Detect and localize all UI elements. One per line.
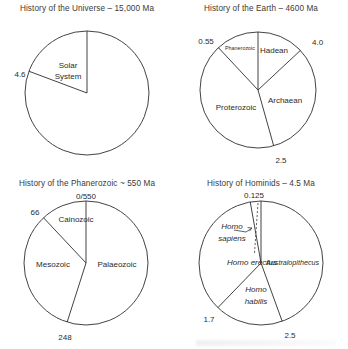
chart-grid: History of the Universe – 15,000 Ma Sola… (0, 0, 348, 349)
earth-label-phanerozoic: Phanerozoic (225, 45, 255, 51)
phanerozoic-tick-0-550: 0/550 (76, 192, 97, 201)
earth-spoke-0-55 (218, 48, 258, 90)
hominids-tick-2-5: 2.5 (284, 331, 296, 340)
hominids-label-habilis-line2: habilis (245, 297, 268, 306)
figure-root: { "figure": { "background": "#ffffff", "… (0, 0, 348, 349)
earth-label-proterozoic: Proterozoic (216, 103, 256, 112)
phanerozoic-tick-66: 66 (31, 208, 40, 217)
panel-phanerozoic: History of the Phanerozoic ~ 550 Ma Cain… (0, 175, 174, 349)
panel-hominids: History of Hominids – 4.5 Ma Homo sapien… (174, 175, 348, 349)
universe-tick-4-6: 4.6 (14, 70, 26, 79)
phanerozoic-label-cainozoic: Cainozoic (58, 215, 93, 224)
panel-universe-svg: Solar System 4.6 (0, 0, 174, 175)
phanerozoic-spoke-66 (44, 218, 86, 263)
hominids-tick-1-7: 1.7 (203, 315, 215, 324)
phanerozoic-spoke-248 (67, 263, 86, 322)
phanerozoic-label-mesozoic: Mesozoic (36, 260, 70, 269)
panel-earth-svg: Hadean Archaean Proterozoic Phanerozoic … (174, 0, 348, 175)
panel-phanerozoic-svg: Cainozoic Mesozoic Palaeozoic 0/550 66 2… (0, 175, 174, 349)
earth-spoke-4-0 (258, 50, 300, 90)
panel-earth: History of the Earth – 4600 Ma Hadean Ar… (174, 0, 348, 175)
earth-tick-2-5: 2.5 (275, 156, 287, 165)
earth-tick-0-55: 0.55 (198, 37, 214, 46)
hominids-label-sapiens-line1: Homo (221, 222, 243, 231)
phanerozoic-tick-248: 248 (58, 333, 72, 342)
panel-hominids-svg: Homo sapiens Homo erectus Homo habilis A… (174, 175, 348, 349)
hominids-tick-0-125: 0.125 (244, 191, 265, 200)
earth-label-archaean: Archaean (268, 96, 302, 105)
universe-wedge-label-line1: Solar (59, 61, 78, 70)
earth-label-hadean: Hadean (260, 46, 288, 55)
hominids-label-sapiens-line2: sapiens (218, 234, 246, 243)
universe-wedge-label-line2: System (55, 72, 82, 81)
earth-tick-4-0: 4.0 (312, 38, 324, 47)
panel-universe: History of the Universe – 15,000 Ma Sola… (0, 0, 174, 175)
hominids-label-australopithecus: Australopithecus (265, 258, 320, 267)
scan-artifact (196, 340, 336, 346)
phanerozoic-label-palaeozoic: Palaeozoic (97, 260, 136, 269)
hominids-label-habilis-line1: Homo (245, 285, 267, 294)
